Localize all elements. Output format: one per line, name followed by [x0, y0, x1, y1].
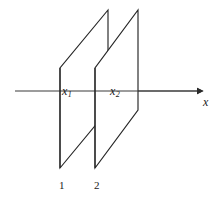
plane-2-position-label: x2 — [110, 85, 120, 99]
figure-canvas: x1 x2 x 1 2 — [0, 0, 217, 204]
diagram-svg — [0, 0, 217, 204]
plane-1-number-label: 1 — [59, 180, 65, 191]
plane-2-number-label: 2 — [94, 180, 100, 191]
plane-1-position-label: x1 — [62, 85, 72, 99]
x-axis-label: x — [203, 96, 208, 108]
plane-1-position-subscript: 1 — [67, 90, 71, 99]
x-axis-arrowhead-overlay — [197, 88, 204, 94]
plane-2-position-subscript: 2 — [115, 90, 119, 99]
